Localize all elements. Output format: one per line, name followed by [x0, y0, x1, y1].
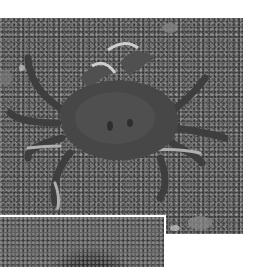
crab-illustration [0, 18, 243, 234]
inset-photo [0, 215, 166, 267]
crab-photo [0, 18, 243, 234]
crab-body [60, 80, 178, 161]
